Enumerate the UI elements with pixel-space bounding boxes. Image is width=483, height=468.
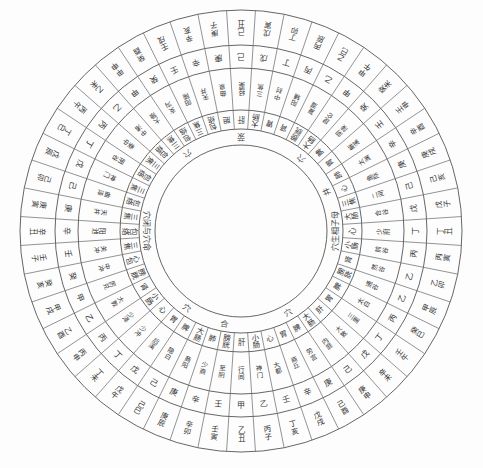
stem-char: 丁 (84, 138, 96, 149)
organ-cell: 肝 (238, 338, 246, 347)
stem-char: 庚 (322, 376, 334, 389)
stem-divider (401, 195, 424, 199)
organ-char: 肾 (278, 122, 289, 133)
organ-char: 心 (348, 227, 357, 235)
outer-ganzhi-divider (170, 407, 181, 440)
outer-ganzhi-divider (24, 267, 58, 274)
organ-cell: 包络 (124, 197, 143, 209)
organ-divider (261, 331, 265, 350)
stem-char: 戊 (408, 204, 419, 213)
stem-cell: 乙 (404, 271, 415, 281)
stem-cell: 丁 (411, 227, 420, 235)
organ-char: 肾 (139, 282, 151, 293)
stem-char: 甲 (74, 292, 85, 303)
acupoint-cell: 三焦 (255, 82, 264, 97)
acupoint-divider (249, 352, 252, 394)
outer-ganzhi-divider (20, 217, 55, 219)
stem-cell: 丁 (374, 331, 386, 343)
acupoint-divider (81, 255, 122, 263)
organ-char: 胃 (265, 118, 274, 129)
organ-cell: 脾 (291, 321, 303, 334)
stem-cell: 丙 (409, 249, 419, 258)
acupoint-char: 门 (256, 370, 264, 380)
acupoint-cell: 阳池 (91, 228, 107, 235)
stem-cell: 乙 (323, 74, 334, 86)
stem-cell: 丙 (302, 64, 313, 75)
outer-ganzhi-cell: 乙巳 (335, 45, 350, 63)
stem-char: 辛 (62, 227, 72, 235)
acupoint-divider (78, 239, 120, 242)
stem-char: 癸 (148, 74, 160, 87)
outer-ganzhi-cell: 己巳 (132, 398, 147, 416)
outer-ganzhi-cell: 丁卯 (287, 25, 299, 43)
section-label: 穴 (181, 302, 193, 315)
acupoint-divider (81, 199, 122, 207)
acupoint-char: 焦 (256, 82, 264, 92)
outer-ganzhi-cell: 丙寅 (434, 252, 451, 262)
outer-ganzhi-divider (20, 243, 55, 245)
stem-divider (404, 242, 427, 244)
organ-char: 络 (206, 114, 216, 126)
acupoint-char: 谷 (380, 246, 390, 254)
organ-char: 肠 (252, 340, 261, 350)
outer-ganzhi-cell: 癸未 (375, 78, 393, 96)
acupoint-divider (209, 71, 217, 112)
organ-cell: 包络 (135, 168, 154, 184)
stem-divider (74, 149, 95, 159)
stem-char: 甲 (237, 401, 245, 410)
stem-char: 丁 (374, 331, 386, 343)
acupoint-cell: 内庭 (320, 335, 335, 352)
stem-char: 丙 (386, 313, 398, 324)
stem-divider (229, 394, 231, 417)
outer-ganzhi-cell: 癸巳 (408, 324, 427, 340)
stem-divider (59, 263, 82, 267)
acupoint-cell: 鱼际 (363, 171, 380, 183)
stem-divider (205, 49, 209, 72)
acupoint-char: 府 (382, 228, 391, 235)
outer-ganzhi-cell: 丙子 (263, 424, 273, 441)
organ-divider (122, 207, 141, 211)
stem-char: 丁 (411, 227, 420, 235)
stem-cell: 辛 (191, 393, 201, 405)
acupoint-cell: 阴谷 (110, 153, 127, 167)
acupoint-cell: 太白 (355, 295, 372, 309)
acupoint-cell: 少冲 (133, 324, 148, 339)
acupoint-char: 商 (199, 366, 208, 377)
outer-ganzhi-divider (198, 14, 205, 48)
organ-char: 心 (338, 182, 349, 193)
outer-ganzhi-cell: 癸亥 (35, 278, 54, 290)
acupoint-cell: 曲泽 (96, 189, 113, 200)
outer-ganzhi-divider (301, 407, 312, 440)
acupoint-cell: 后溪 (147, 335, 162, 352)
acupoint-cell: 至阴 (218, 364, 227, 379)
organ-cell: 脾 (331, 280, 344, 292)
outer-ganzhi-cell: 己亥 (429, 172, 447, 184)
organ-cell: 心 (265, 333, 275, 344)
acupoint-divider (249, 68, 252, 110)
acupoint-divider (360, 255, 401, 263)
stem-char: 壬 (63, 249, 74, 258)
acupoint-cell: 通谷 (363, 279, 380, 291)
organ-cell: 肾 (278, 122, 289, 133)
stem-cell: 戊 (259, 53, 268, 64)
outer-ganzhi-cell: 庚申 (357, 382, 374, 401)
stem-char: 戊 (129, 363, 141, 376)
outer-ganzhi-char: 丑 (29, 228, 38, 236)
stem-char: 壬 (281, 393, 291, 405)
organ-char: 肠 (350, 211, 360, 220)
outer-ganzhi-cell: 丁巳 (55, 122, 73, 137)
outer-ganzhi-cell: 癸酉 (131, 46, 147, 65)
stem-char: 丙 (96, 119, 108, 131)
stem-cell: 壬 (169, 64, 180, 76)
acupoint-divider (189, 77, 203, 117)
stem-cell: 甲 (237, 401, 245, 410)
organ-char: 肾 (344, 254, 355, 264)
stem-char: 壬 (214, 398, 223, 409)
stem-char: 丙 (302, 64, 313, 75)
acupoint-cell: 商丘 (289, 353, 301, 370)
outer-ganzhi-char: 寅 (441, 253, 452, 262)
outer-ganzhi-char: 子 (30, 254, 40, 263)
outer-ganzhi-cell: 戊子 (433, 199, 451, 209)
outer-ganzhi-cell: 戊寅 (262, 20, 272, 38)
stem-cell: 乙 (259, 399, 268, 409)
